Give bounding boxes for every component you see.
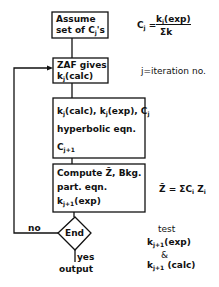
zbar-formula: Z̄ = ΣCi Zi bbox=[159, 184, 206, 194]
yes-label: yes bbox=[77, 252, 94, 262]
box-zaf-line2: kj(calc) bbox=[57, 71, 107, 82]
box-compute-line1: Compute Z̄, Bkg. bbox=[57, 166, 141, 180]
cj-formula-numerator: ki(exp) bbox=[156, 14, 191, 25]
cj-formula-denominator: Σk bbox=[160, 27, 172, 37]
box-hyperbolic: kj(calc), kj(exp), Cj hyperbolic eqn. Cj… bbox=[57, 102, 150, 156]
feedback-loop-line bbox=[14, 68, 58, 233]
box-compute: Compute Z̄, Bkg. part. eqn. kj+1(exp) bbox=[57, 166, 141, 208]
test-line1: kj+1(exp) bbox=[147, 237, 191, 247]
box-compute-line2: part. eqn. bbox=[57, 180, 141, 194]
box-hyperbolic-line2: hyperbolic eqn. bbox=[57, 120, 150, 138]
box-assume: Assume set of Cj's bbox=[56, 14, 105, 36]
decision-label: End bbox=[65, 228, 84, 238]
test-amp: & bbox=[161, 250, 168, 260]
test-label: test bbox=[158, 224, 175, 234]
test-line2: kj+1 (calc) bbox=[147, 260, 195, 270]
box-zaf-line1: ZAF gives bbox=[57, 60, 107, 71]
box-zaf: ZAF gives kj(calc) bbox=[57, 60, 107, 82]
box-assume-line1: Assume bbox=[56, 14, 105, 25]
arrow-head-icon bbox=[47, 66, 53, 71]
box-hyperbolic-line3: Cj+1 bbox=[57, 138, 150, 156]
no-label: no bbox=[28, 223, 41, 233]
box-compute-line3: kj+1(exp) bbox=[57, 194, 141, 208]
output-label: output bbox=[59, 264, 93, 274]
box-hyperbolic-line1: kj(calc), kj(exp), Cj bbox=[57, 102, 150, 120]
iteration-note: j=iteration no. bbox=[141, 66, 206, 76]
cj-formula-lhs: Cj = bbox=[137, 20, 156, 30]
box-assume-line2: set of Cj's bbox=[56, 25, 105, 36]
